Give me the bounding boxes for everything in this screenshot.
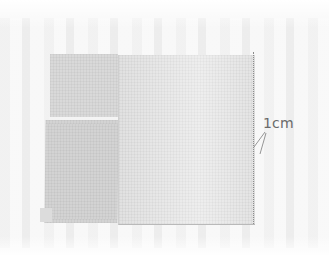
right-fabric-shading bbox=[119, 55, 255, 224]
background-fade-bottom bbox=[0, 236, 329, 256]
left-fabric-corner bbox=[40, 208, 52, 222]
sewing-diagram: 1cm bbox=[0, 0, 329, 256]
measurement-label: 1cm bbox=[263, 115, 294, 131]
right-fabric-piece bbox=[118, 55, 255, 225]
leader-lines-icon bbox=[250, 130, 280, 160]
background-fade-top bbox=[0, 0, 329, 28]
left-fabric-lower-piece bbox=[44, 120, 118, 223]
left-fabric-upper-piece bbox=[50, 54, 118, 118]
left-fabric-fold-line bbox=[49, 117, 119, 120]
